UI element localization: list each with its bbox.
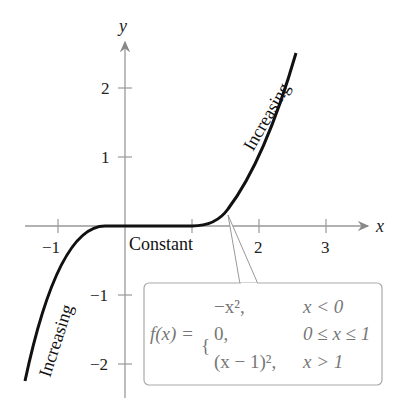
x-tick-label-3: 3 <box>321 238 330 257</box>
piecewise-function-graph: −1 2 3 2 1 −1 −2 y x Increasing Constant… <box>0 0 406 416</box>
case1-cond: x < 0 <box>302 296 344 317</box>
y-axis-label: y <box>117 16 127 36</box>
x-tick-label-neg1: −1 <box>42 238 60 257</box>
y-tick-label-neg1: −1 <box>90 286 108 305</box>
case3-expr: (x − 1)², <box>214 351 276 373</box>
x-axis-label: x <box>375 216 384 236</box>
case2-cond: 0 ≤ x ≤ 1 <box>303 323 370 344</box>
formula-brace: { <box>201 335 210 356</box>
y-tick-label-2: 2 <box>101 79 110 98</box>
case3-cond: x > 1 <box>302 351 343 372</box>
label-constant: Constant <box>129 234 193 254</box>
x-tick-label-2: 2 <box>254 238 263 257</box>
label-increasing-right: Increasing <box>239 79 294 154</box>
y-tick-label-neg2: −2 <box>90 355 108 374</box>
y-tick-label-1: 1 <box>101 148 110 167</box>
case1-expr: −x², <box>214 296 245 317</box>
formula-lhs: f(x) = <box>150 323 194 345</box>
case2-expr: 0, <box>214 323 228 344</box>
